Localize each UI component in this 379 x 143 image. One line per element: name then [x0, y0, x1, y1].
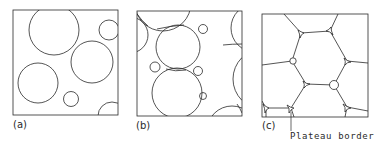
panel-c: [262, 14, 368, 131]
bubble: [150, 62, 160, 72]
bubble: [231, 4, 279, 52]
bubble: [200, 93, 207, 100]
film: [237, 104, 242, 113]
bubble: [152, 68, 202, 118]
bubble: [29, 5, 79, 55]
plateau-border-annotation: Plateau border: [290, 132, 374, 141]
plateau-border: [344, 58, 351, 65]
cell-edge: [330, 31, 347, 61]
plateau-border: [298, 30, 304, 38]
panel-b-label: (b): [136, 121, 150, 131]
bubble: [18, 63, 58, 103]
bubble: [199, 25, 208, 34]
plateau-border: [330, 81, 339, 90]
cell-edge: [301, 31, 330, 33]
plateau-border: [343, 104, 351, 112]
plateau-border: [290, 58, 296, 64]
film: [157, 25, 184, 29]
bubble: [98, 102, 126, 130]
panel-c-frame: [262, 14, 368, 117]
panel-a-frame: [13, 10, 118, 115]
foam-structure-diagram: [0, 0, 379, 143]
plateau-border: [303, 81, 310, 88]
bubble: [71, 41, 113, 83]
cell-edge: [262, 61, 292, 65]
panel-c-label: (c): [262, 121, 275, 131]
panel-a-label: (a): [13, 120, 27, 130]
panel-a: [13, 5, 126, 130]
plateau-borders: [263, 27, 351, 113]
bubble: [135, 0, 191, 31]
bubble: [64, 92, 79, 107]
bubble: [207, 106, 257, 143]
plateau-border: [326, 27, 333, 35]
bubble: [156, 25, 200, 69]
cell-edge: [292, 61, 306, 84]
bubble: [99, 20, 119, 40]
bubble: [194, 67, 203, 76]
film: [137, 14, 148, 26]
plateau-border: [287, 105, 294, 113]
film: [223, 44, 242, 45]
